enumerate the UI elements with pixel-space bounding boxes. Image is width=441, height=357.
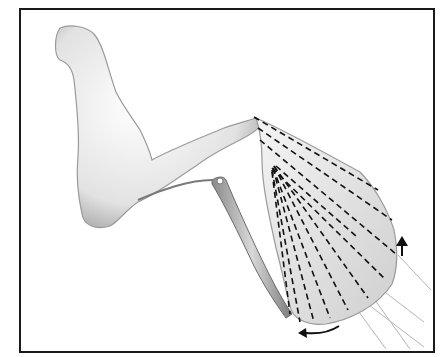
anatomy-drawing xyxy=(0,0,441,357)
rotation-arrow-up xyxy=(396,236,408,256)
rotation-arrow-left xyxy=(298,326,339,338)
joint-marker xyxy=(217,178,223,184)
illustration-figure xyxy=(0,0,441,357)
